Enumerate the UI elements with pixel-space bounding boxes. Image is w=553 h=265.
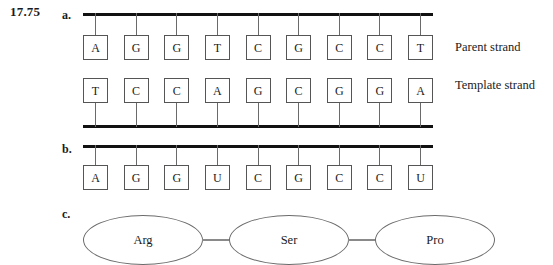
base-box: G	[164, 165, 189, 190]
parent-strand-base-row: A G G T C G C C	[83, 35, 433, 60]
peptide-bond-line	[348, 239, 375, 241]
base-cell: U	[408, 165, 433, 190]
connector-tick	[258, 103, 259, 127]
base-box: A	[408, 78, 433, 103]
connector-tick	[176, 103, 177, 127]
base-cell: G	[164, 165, 189, 190]
base-box: G	[327, 78, 352, 103]
base-cell: C	[367, 165, 392, 190]
exercise-number: 17.75	[10, 4, 40, 20]
dna-transcription-translation-figure: 17.75 a. b. c. A G G T C G	[0, 0, 553, 265]
base-cell: A	[83, 165, 108, 190]
connector-tick	[95, 145, 96, 165]
base-box: C	[327, 165, 352, 190]
base-cell: T	[205, 35, 230, 60]
base-box: G	[286, 35, 311, 60]
base-box: G	[124, 165, 149, 190]
base-cell: C	[246, 165, 271, 190]
connector-tick	[420, 145, 421, 165]
connector-tick	[339, 145, 340, 165]
base-cell: C	[367, 35, 392, 60]
connector-tick	[420, 103, 421, 127]
base-box: A	[205, 78, 230, 103]
amino-acid-chain: Arg Ser Pro	[83, 215, 495, 265]
base-cell: A	[205, 78, 230, 103]
base-box: C	[327, 35, 352, 60]
connector-tick	[379, 103, 380, 127]
connector-tick	[379, 13, 380, 35]
base-cell: G	[124, 35, 149, 60]
connector-tick	[136, 13, 137, 35]
base-cell: T	[83, 78, 108, 103]
base-cell: C	[246, 35, 271, 60]
base-cell: G	[367, 78, 392, 103]
base-box: T	[205, 35, 230, 60]
template-strand-base-row: T C C A G C G G	[83, 78, 433, 103]
base-cell: C	[327, 35, 352, 60]
base-box: G	[124, 35, 149, 60]
connector-tick	[217, 13, 218, 35]
base-cell: U	[205, 165, 230, 190]
part-c-label: c.	[62, 207, 70, 222]
base-box: G	[164, 35, 189, 60]
connector-tick	[217, 145, 218, 165]
base-box: G	[286, 165, 311, 190]
part-a-label: a.	[62, 8, 71, 23]
amino-acid-ellipse: Pro	[375, 215, 495, 265]
connector-tick	[136, 103, 137, 127]
template-strand-caption: Template strand	[455, 78, 535, 93]
base-box: T	[408, 35, 433, 60]
connector-tick	[379, 145, 380, 165]
base-box: C	[286, 78, 311, 103]
connector-tick	[298, 103, 299, 127]
base-box: C	[164, 78, 189, 103]
base-cell: C	[327, 165, 352, 190]
base-box: C	[246, 165, 271, 190]
base-cell: G	[327, 78, 352, 103]
connector-tick	[339, 13, 340, 35]
base-box: G	[367, 78, 392, 103]
connector-tick	[95, 13, 96, 35]
connector-tick	[95, 103, 96, 127]
base-cell: G	[164, 35, 189, 60]
amino-acid-ellipse: Ser	[229, 215, 349, 265]
base-cell: C	[286, 78, 311, 103]
base-cell: T	[408, 35, 433, 60]
connector-tick	[176, 145, 177, 165]
connector-tick	[258, 13, 259, 35]
base-box: C	[124, 78, 149, 103]
connector-tick	[339, 103, 340, 127]
base-cell: C	[124, 78, 149, 103]
mrna-base-row: A G G U C G C C	[83, 165, 433, 190]
connector-tick	[298, 145, 299, 165]
peptide-bond-line	[202, 239, 229, 241]
connector-tick	[258, 145, 259, 165]
base-cell: G	[286, 165, 311, 190]
base-box: T	[83, 78, 108, 103]
base-cell: G	[286, 35, 311, 60]
connector-tick	[136, 145, 137, 165]
base-box: U	[205, 165, 230, 190]
base-box: C	[367, 165, 392, 190]
connector-tick	[176, 13, 177, 35]
base-box: G	[246, 78, 271, 103]
connector-tick	[217, 103, 218, 127]
base-box: C	[246, 35, 271, 60]
base-box: U	[408, 165, 433, 190]
connector-tick	[298, 13, 299, 35]
base-cell: A	[408, 78, 433, 103]
base-cell: A	[83, 35, 108, 60]
base-cell: G	[246, 78, 271, 103]
part-b-label: b.	[62, 142, 72, 157]
parent-strand-caption: Parent strand	[455, 40, 521, 55]
amino-acid-ellipse: Arg	[83, 215, 203, 265]
base-box: A	[83, 35, 108, 60]
base-cell: G	[124, 165, 149, 190]
base-box: A	[83, 165, 108, 190]
base-box: C	[367, 35, 392, 60]
connector-tick	[420, 13, 421, 35]
base-cell: C	[164, 78, 189, 103]
